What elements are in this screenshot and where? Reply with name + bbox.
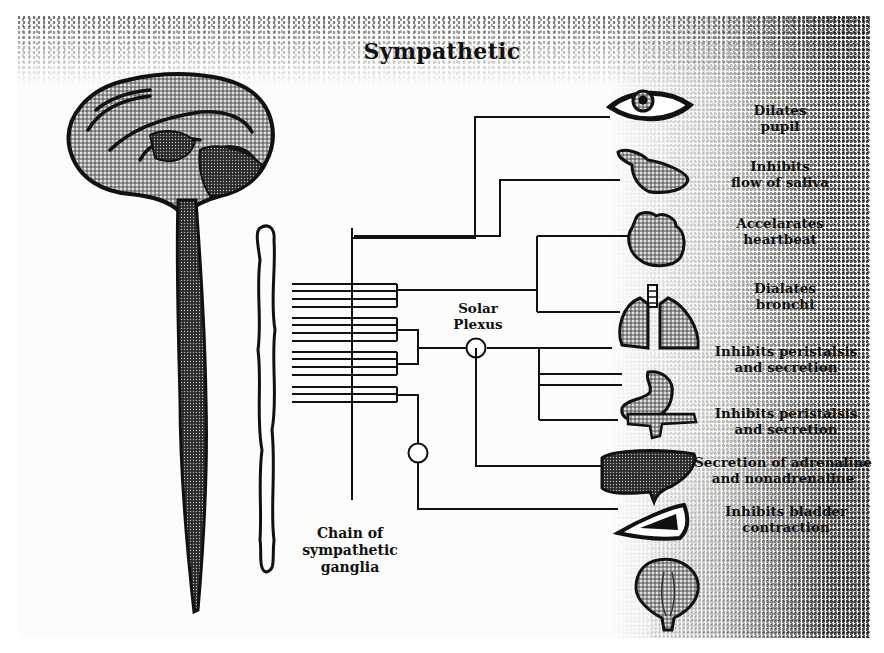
effect-label-salivary: Inhibits flow of saliva [700,158,860,190]
ganglia-chain-icon [257,226,275,572]
effect-label-stomach: Inhibits peristalsis and secretion [700,343,872,375]
effect-label-bladder: Inhibits bladder contraction [706,503,866,535]
liver-icon [602,451,695,502]
spinal-cord-icon [177,200,206,612]
pancreas-icon [628,414,696,438]
eye-icon [610,91,690,119]
effect-label-heart: Accelarates heartbeat [710,215,850,247]
effect-label-pancreas: Inhibits peristalsis and secretion [700,405,872,437]
solar-plexus-label: Solar Plexus [440,300,516,332]
effect-label-liver: Secretion of adrenaline and nonadrenalin… [692,454,874,486]
diagram-title: Sympathetic [0,38,884,64]
lower-ganglion-node [409,444,428,463]
salivary-gland-icon [618,150,688,192]
chain-of-ganglia-label: Chain of sympathetic ganglia [298,525,402,576]
brain-icon [69,74,273,212]
effect-label-lungs: Dialates bronchi [720,280,850,312]
adrenal-icon [618,505,687,539]
effect-label-eye: Dilates pupil [720,102,840,134]
heart-icon [629,213,684,266]
bladder-icon [636,559,698,630]
lungs-icon [620,285,698,348]
sympathetic-diagram: Sympathetic Solar Plexus Chain of sympat… [0,0,884,653]
